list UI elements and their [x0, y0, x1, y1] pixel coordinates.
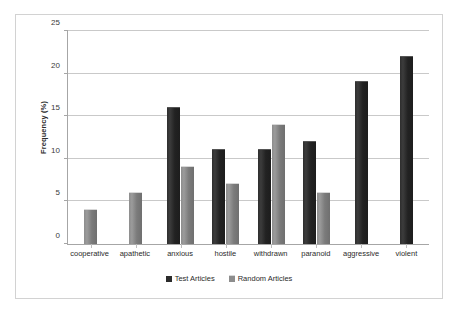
bar[interactable] [400, 56, 413, 244]
bar-group [384, 31, 429, 244]
x-tick-mark [316, 244, 317, 248]
y-tick-label: 20 [51, 60, 60, 69]
bar[interactable] [129, 192, 142, 244]
x-tick-mark [271, 244, 272, 248]
x-tick-label: violent [384, 249, 429, 258]
y-tick-label: 5 [56, 188, 60, 197]
x-tick-mark [91, 244, 92, 248]
bar-group [68, 31, 113, 244]
bar[interactable] [212, 149, 225, 244]
x-tick-mark [361, 244, 362, 248]
x-tick-label: paranoid [293, 249, 338, 258]
legend-label: Test Articles [175, 274, 215, 283]
x-tick-label: apathetic [112, 249, 157, 258]
y-tick-label: 10 [51, 145, 60, 154]
chart-legend: Test ArticlesRandom Articles [16, 274, 442, 283]
x-tick-label: aggressive [339, 249, 384, 258]
bar-group [339, 31, 384, 244]
bar[interactable] [167, 107, 180, 244]
x-tick-mark [226, 244, 227, 248]
bar-group [158, 31, 203, 244]
bar[interactable] [181, 166, 194, 244]
x-tick-label: withdrawn [248, 249, 293, 258]
legend-swatch-icon [166, 276, 172, 282]
bar[interactable] [226, 183, 239, 244]
x-tick-mark [181, 244, 182, 248]
bar[interactable] [303, 141, 316, 244]
legend-label: Random Articles [238, 274, 293, 283]
bar[interactable] [84, 209, 97, 244]
y-tick-label: 15 [51, 103, 60, 112]
y-axis-title: Frequency (%) [39, 73, 48, 183]
legend-item[interactable]: Test Articles [166, 274, 215, 283]
legend-item[interactable]: Random Articles [229, 274, 293, 283]
bar-group [294, 31, 339, 244]
bar-group [113, 31, 158, 244]
bar-group [249, 31, 294, 244]
bars-layer [68, 31, 429, 244]
plot-area: 2520151050 [67, 31, 429, 245]
x-tick-label: hostile [203, 249, 248, 258]
x-tick-mark [406, 244, 407, 248]
bar-group [203, 31, 248, 244]
bar[interactable] [317, 192, 330, 244]
chart-frame: Frequency (%) 2520151050 cooperativeapat… [15, 14, 443, 299]
y-tick-label: 25 [51, 18, 60, 27]
bar[interactable] [355, 81, 368, 244]
bar[interactable] [272, 124, 285, 244]
x-tick-mark [136, 244, 137, 248]
x-tick-label: anxious [158, 249, 203, 258]
legend-swatch-icon [229, 275, 235, 282]
x-axis-labels: cooperativeapatheticanxioushostilewithdr… [67, 249, 429, 258]
x-tick-label: cooperative [67, 249, 112, 258]
y-tick-label: 0 [56, 231, 60, 240]
bar[interactable] [258, 149, 271, 244]
